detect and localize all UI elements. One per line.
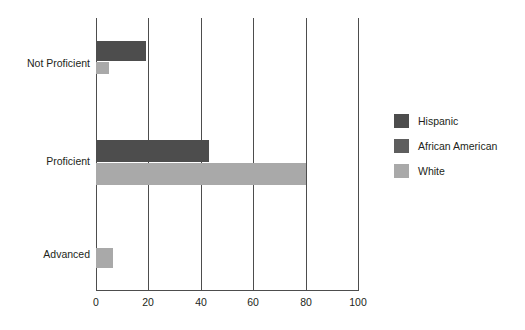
gridline-60: [253, 18, 254, 290]
category-label-advanced: Advanced: [0, 248, 90, 260]
bar-not-proficient-hispanic: [96, 41, 146, 61]
legend-label-white: White: [418, 165, 445, 177]
legend-swatch-hispanic: [394, 114, 409, 128]
bar-advanced-white: [96, 248, 113, 268]
legend: Hispanic African American White: [394, 108, 497, 183]
x-tick-label-60: 60: [247, 296, 259, 308]
x-tick-label-80: 80: [300, 296, 312, 308]
x-tick-label-20: 20: [142, 296, 154, 308]
bar-proficient-white: [96, 163, 306, 185]
legend-swatch-white: [394, 164, 409, 178]
bar-not-proficient-white: [96, 62, 109, 74]
category-label-not-proficient: Not Proficient: [0, 57, 90, 69]
x-tick-label-40: 40: [195, 296, 207, 308]
gridline-80: [306, 18, 307, 290]
bar-proficient-hispanic: [96, 140, 209, 162]
legend-item-hispanic: Hispanic: [394, 108, 497, 133]
legend-label-hispanic: Hispanic: [418, 115, 458, 127]
x-tick-label-100: 100: [349, 296, 367, 308]
x-tick-label-0: 0: [93, 296, 99, 308]
legend-label-african-american: African American: [418, 140, 497, 152]
gridline-100: [358, 18, 359, 290]
plot-area: [96, 18, 358, 290]
legend-item-african-american: African American: [394, 133, 497, 158]
legend-item-white: White: [394, 158, 497, 183]
category-label-proficient: Proficient: [0, 155, 90, 167]
x-axis-line: [96, 290, 359, 291]
chart-figure: Not Proficient Proficient Advanced 0 20 …: [0, 0, 525, 330]
legend-swatch-african-american: [394, 139, 409, 153]
